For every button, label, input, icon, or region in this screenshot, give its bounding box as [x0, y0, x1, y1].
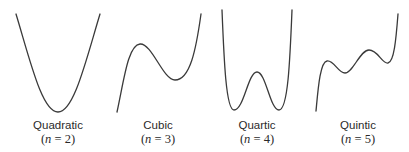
cubic-caption: Cubic (n = 3) — [108, 119, 208, 146]
cubic-degree: (n = 3) — [108, 132, 208, 146]
quadratic-curve — [16, 14, 100, 112]
quartic-degree: (n = 4) — [207, 132, 307, 146]
cubic-name: Cubic — [108, 119, 208, 132]
quartic-curve — [222, 10, 292, 110]
cubic-curve — [117, 14, 201, 112]
quintic-name: Quintic — [308, 119, 408, 132]
quadratic-name: Quadratic — [8, 119, 108, 132]
quartic-name: Quartic — [207, 119, 307, 132]
quintic-caption: Quintic (n = 5) — [308, 119, 408, 146]
quadratic-degree: (n = 2) — [8, 132, 108, 146]
quartic-caption: Quartic (n = 4) — [207, 119, 307, 146]
quintic-curve — [316, 14, 398, 111]
quadratic-caption: Quadratic (n = 2) — [8, 119, 108, 146]
quintic-degree: (n = 5) — [308, 132, 408, 146]
